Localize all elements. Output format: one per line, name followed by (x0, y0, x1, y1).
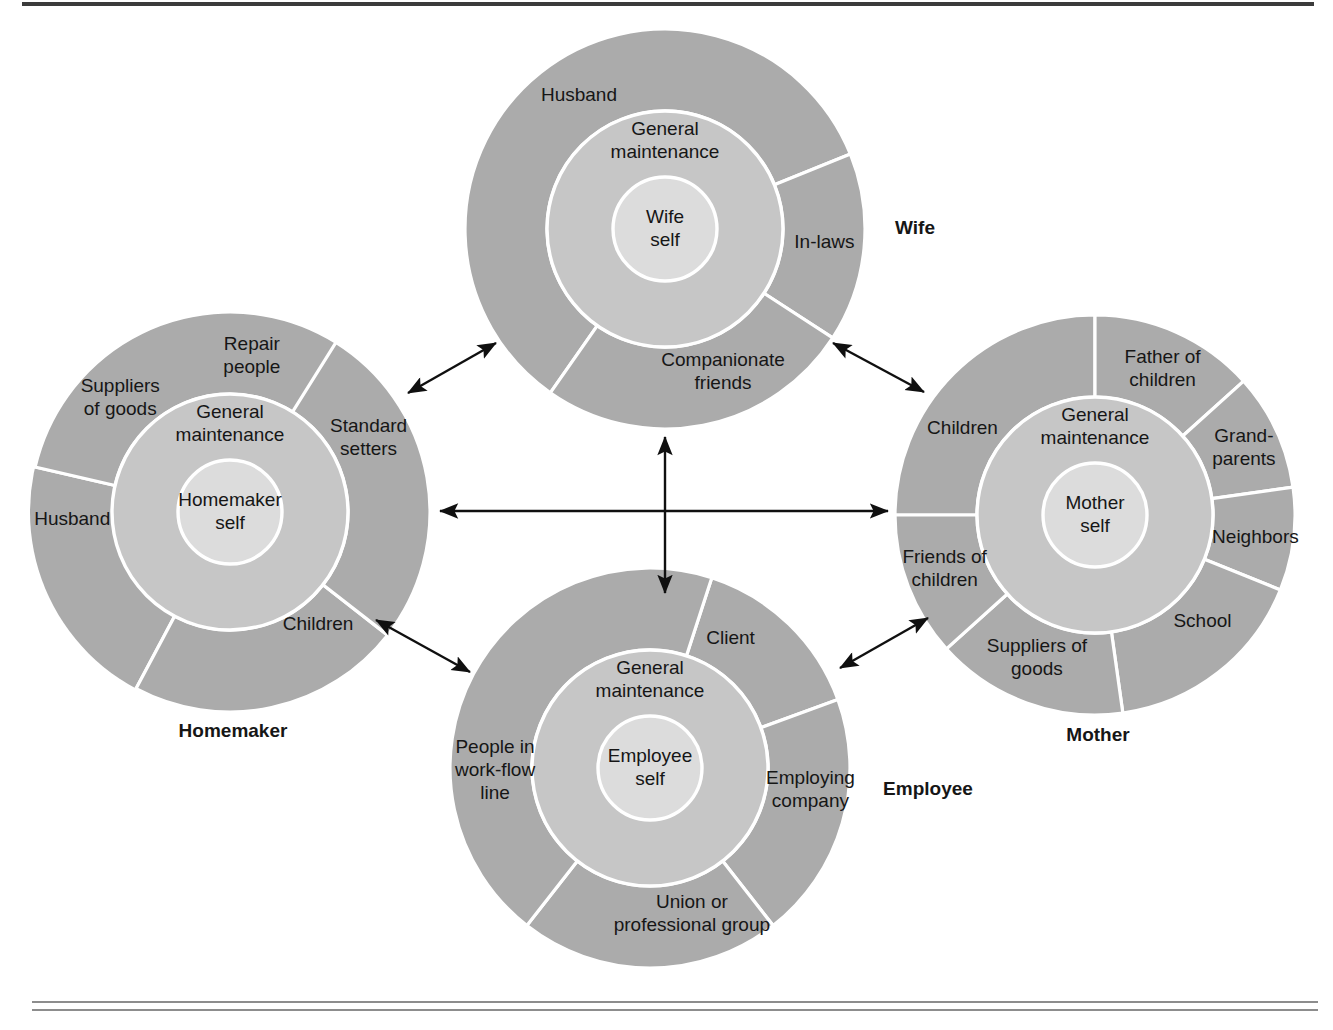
role-circle-employee[interactable]: ClientEmployingcompanyUnion orprofession… (450, 568, 855, 968)
arrow-employee-mother (840, 618, 928, 668)
role-label-homemaker: Homemaker (179, 720, 288, 741)
role-label-wife: Wife (895, 217, 935, 238)
role-cluster-diagram: HusbandIn-lawsCompanionatefriendsGeneral… (0, 0, 1333, 1030)
sector-label-mother-3: Neighbors (1212, 526, 1299, 547)
role-label-employee: Employee (883, 778, 973, 799)
sector-label-homemaker-2: Husband (34, 508, 110, 529)
arrow-wife-mother (833, 343, 924, 392)
sector-label-mother-4: School (1173, 610, 1231, 631)
sector-label-wife-0: Husband (541, 85, 617, 106)
figure-container: HusbandIn-lawsCompanionatefriendsGeneral… (0, 0, 1333, 1030)
role-circle-homemaker[interactable]: RepairpeopleSuppliersof goodsHusbandChil… (30, 312, 430, 712)
role-circle-mother[interactable]: ChildrenFather ofchildrenGrand-parentsNe… (895, 315, 1299, 715)
role-circle-wife[interactable]: HusbandIn-lawsCompanionatefriendsGeneral… (465, 29, 865, 429)
sector-label-employee-0: Client (706, 627, 755, 648)
arrow-homemaker-wife (408, 343, 496, 393)
sector-label-wife-1: In-laws (794, 231, 854, 252)
role-label-mother: Mother (1066, 724, 1130, 745)
arrow-homemaker-employee (376, 620, 470, 672)
sector-label-mother-0: Children (927, 417, 998, 438)
sector-label-homemaker-3: Children (283, 613, 354, 634)
